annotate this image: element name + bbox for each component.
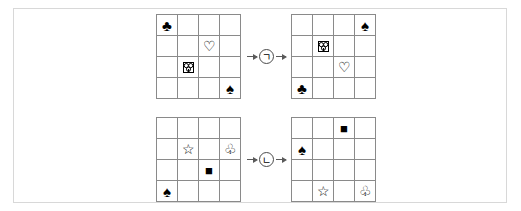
grid-cell — [157, 139, 178, 160]
grid-cell — [313, 139, 334, 160]
grid-cell: ■ — [334, 118, 355, 139]
grid-cell — [157, 118, 178, 139]
grid-cell — [313, 57, 334, 78]
grid-cell — [220, 160, 241, 181]
star-open-icon: ☆ — [182, 142, 195, 156]
grid-cell — [178, 78, 199, 99]
grid-cell — [313, 160, 334, 181]
club-open-icon: ♧ — [359, 184, 372, 198]
grid-cell — [199, 78, 220, 99]
grid-cell: ♡ — [199, 36, 220, 57]
grid-cell: ♣ — [292, 78, 313, 99]
grid-cell — [313, 78, 334, 99]
spade-filled-icon: ♠ — [163, 184, 171, 199]
square-filled-icon: ■ — [340, 122, 348, 135]
grid-cell: ♠ — [292, 139, 313, 160]
spade-filled-icon: ♠ — [226, 81, 234, 96]
grid-cell — [199, 15, 220, 36]
grid-cell — [292, 15, 313, 36]
grid-cell — [220, 57, 241, 78]
grid-cell — [199, 139, 220, 160]
rule-badge-giyeok: ㄱ — [259, 49, 274, 64]
grid-cell — [199, 118, 220, 139]
grid-cell — [220, 15, 241, 36]
rule-row-nieun: ☆♧■♠ ㄴ ■♠☆♧ — [156, 117, 376, 202]
grid-cell — [199, 57, 220, 78]
grid-cell: ♧ — [220, 139, 241, 160]
grid-cell: ♡ — [334, 57, 355, 78]
grid-nieun-output: ■♠☆♧ — [291, 117, 376, 202]
grid-cell — [292, 36, 313, 57]
grid-giyeok-output: ♠♡♣ — [291, 14, 376, 99]
grid-cell — [355, 78, 376, 99]
rule-row-giyeok: ♣♡♠ ㄱ ♠♡♣ — [156, 14, 376, 99]
grid-giyeok-input: ♣♡♠ — [156, 14, 241, 99]
arrow-left-icon — [247, 56, 257, 57]
grid-cell — [292, 181, 313, 202]
grid-cell — [313, 118, 334, 139]
grid-cell — [355, 36, 376, 57]
rule-badge-nieun: ㄴ — [259, 152, 274, 167]
club-open-icon: ♧ — [224, 142, 237, 156]
grid-cell: ☆ — [178, 139, 199, 160]
grid-cell — [178, 15, 199, 36]
grid-cell — [220, 36, 241, 57]
odd-glyph-icon — [182, 61, 195, 74]
heart-open-icon: ♡ — [338, 60, 351, 74]
grid-cell — [292, 118, 313, 139]
puzzle-canvas: ♣♡♠ ㄱ ♠♡♣ ☆♧■♠ ㄴ ■♠☆♧ — [0, 0, 521, 211]
spade-filled-icon: ♠ — [361, 18, 369, 33]
star-open-icon: ☆ — [317, 184, 330, 198]
grid-cell — [157, 57, 178, 78]
grid-nieun-input: ☆♧■♠ — [156, 117, 241, 202]
grid-cell — [334, 78, 355, 99]
grid-cell — [178, 160, 199, 181]
grid-cell — [355, 118, 376, 139]
grid-cell — [292, 160, 313, 181]
grid-cell — [199, 181, 220, 202]
grid-cell — [157, 160, 178, 181]
club-filled-icon: ♣ — [297, 81, 307, 96]
square-filled-icon: ■ — [205, 164, 213, 177]
grid-cell — [178, 57, 199, 78]
grid-cell — [178, 118, 199, 139]
heart-open-icon: ♡ — [203, 39, 216, 53]
grid-cell: ♠ — [157, 181, 178, 202]
odd-glyph-icon — [317, 40, 330, 53]
connector-nieun: ㄴ — [241, 118, 291, 202]
grid-cell — [334, 139, 355, 160]
grid-cell — [157, 36, 178, 57]
grid-cell — [313, 15, 334, 36]
grid-cell — [220, 181, 241, 202]
grid-cell — [334, 160, 355, 181]
grid-cell — [178, 36, 199, 57]
grid-cell — [355, 139, 376, 160]
grid-cell: ☆ — [313, 181, 334, 202]
grid-cell: ♧ — [355, 181, 376, 202]
grid-cell — [334, 181, 355, 202]
grid-cell: ■ — [199, 160, 220, 181]
arrow-right-icon — [276, 159, 286, 160]
arrow-right-icon — [276, 56, 286, 57]
grid-cell — [334, 15, 355, 36]
spade-filled-icon: ♠ — [298, 142, 306, 157]
grid-cell — [355, 57, 376, 78]
connector-giyeok: ㄱ — [241, 15, 291, 99]
grid-cell: ♣ — [157, 15, 178, 36]
grid-cell: ♠ — [355, 15, 376, 36]
club-filled-icon: ♣ — [162, 18, 172, 33]
grid-cell — [292, 57, 313, 78]
arrow-left-icon — [247, 159, 257, 160]
grid-cell: ♠ — [220, 78, 241, 99]
grid-cell — [313, 36, 334, 57]
grid-cell — [334, 36, 355, 57]
grid-cell — [178, 181, 199, 202]
grid-cell — [157, 78, 178, 99]
grid-cell — [220, 118, 241, 139]
grid-cell — [355, 160, 376, 181]
